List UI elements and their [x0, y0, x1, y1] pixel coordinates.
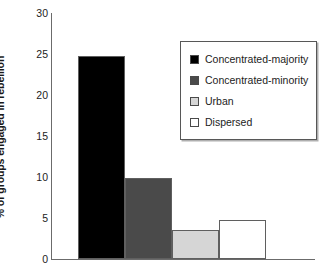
legend-item-3: Urban: [190, 92, 309, 110]
legend-swatch-icon: [190, 118, 199, 127]
legend-item-2: Concentrated-minority: [190, 71, 309, 89]
y-tick-label: 5: [26, 213, 48, 224]
y-tick-label: 0: [26, 254, 48, 265]
bar-4: [219, 220, 266, 259]
y-tick-label: 20: [26, 90, 48, 101]
y-axis-tick-labels: 051015202530: [24, 0, 48, 274]
legend-label: Dispersed: [205, 117, 252, 128]
bar-2: [125, 178, 172, 259]
legend-label: Concentrated-majority: [205, 54, 308, 65]
y-tick-label: 30: [26, 8, 48, 19]
bar-1: [78, 56, 125, 259]
legend-label: Concentrated-minority: [205, 75, 308, 86]
chart-legend: Concentrated-majorityConcentrated-minori…: [180, 41, 317, 140]
legend-swatch-icon: [190, 76, 199, 85]
y-tick-label: 15: [26, 131, 48, 142]
y-tick-label: 10: [26, 172, 48, 183]
legend-label: Urban: [205, 96, 234, 107]
bar-chart-figure: % of groups engaged in rebellion 0510152…: [0, 0, 331, 274]
legend-swatch-icon: [190, 97, 199, 106]
legend-item-1: Concentrated-majority: [190, 50, 309, 68]
y-tick-label: 25: [26, 49, 48, 60]
legend-item-4: Dispersed: [190, 113, 309, 131]
legend-swatch-icon: [190, 55, 199, 64]
bar-3: [172, 230, 219, 259]
x-axis-line: [51, 259, 315, 260]
